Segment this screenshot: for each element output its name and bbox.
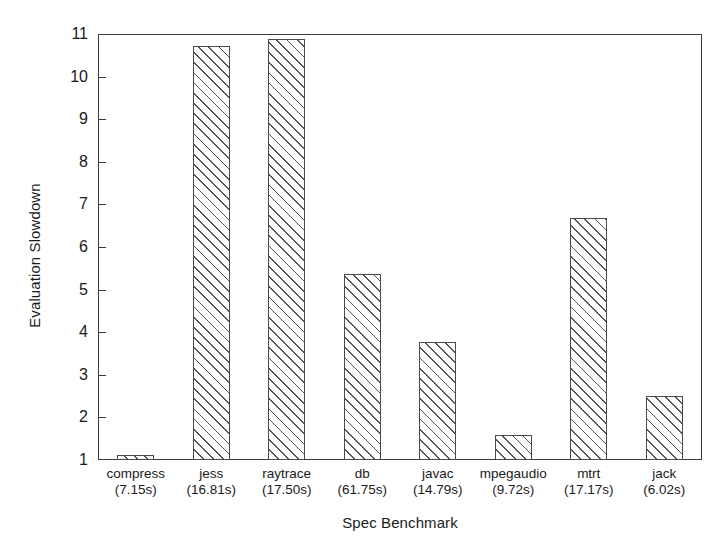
y-axis-title: Evaluation Slowdown <box>26 136 43 376</box>
y-tick-label: 6 <box>48 239 88 255</box>
y-tick-label: 3 <box>48 367 88 383</box>
y-tick-label: 9 <box>48 111 88 127</box>
y-tick-label: 4 <box>48 324 88 340</box>
bar-chart-figure: Evaluation Slowdown 1234567891011 compre… <box>0 0 724 551</box>
y-tick-label: 2 <box>48 409 88 425</box>
bar <box>570 218 607 460</box>
y-tick-mark <box>98 332 106 333</box>
bar <box>268 39 305 460</box>
y-tick-mark <box>98 247 106 248</box>
x-tick-label: jack(6.02s) <box>604 466 724 498</box>
bar <box>419 342 456 460</box>
y-tick-label: 7 <box>48 196 88 212</box>
bar <box>344 274 381 460</box>
y-tick-mark <box>98 290 106 291</box>
y-tick-mark <box>98 162 106 163</box>
y-tick-mark <box>98 417 106 418</box>
y-tick-label: 5 <box>48 282 88 298</box>
y-tick-mark <box>98 204 106 205</box>
y-tick-label: 11 <box>48 26 88 42</box>
x-axis-title: Spec Benchmark <box>98 514 702 531</box>
bar <box>495 435 532 460</box>
x-tick-benchmark-name: jack <box>604 466 724 482</box>
y-tick-mark <box>98 77 106 78</box>
bar <box>193 46 230 460</box>
y-tick-label: 8 <box>48 154 88 170</box>
y-tick-mark <box>98 119 106 120</box>
bar <box>646 396 683 460</box>
x-tick-benchmark-time: (6.02s) <box>604 482 724 498</box>
bar <box>117 455 154 460</box>
y-tick-mark <box>98 375 106 376</box>
plot-area <box>98 34 702 460</box>
y-tick-label: 10 <box>48 69 88 85</box>
